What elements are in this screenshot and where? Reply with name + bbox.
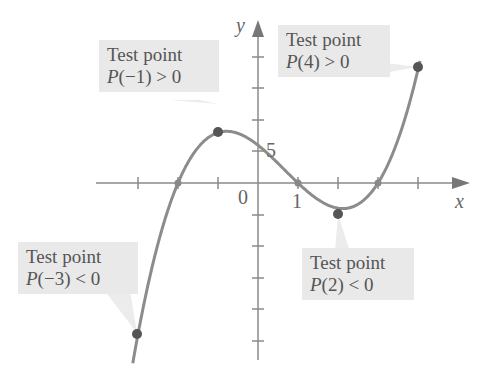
origin-label: 0 <box>238 186 248 209</box>
callout-test-point-neg1: Test point P(−1) > 0 <box>99 40 219 92</box>
zero-point <box>375 180 382 187</box>
callout-fn: P <box>26 268 38 289</box>
callout-test-point-neg3: Test point P(−3) < 0 <box>18 242 138 294</box>
callout-relation: > 0 <box>151 66 181 87</box>
callout-title: Test point <box>286 29 382 51</box>
x-axis-arrow-icon <box>452 177 470 189</box>
callout-test-point-2: Test point P(2) < 0 <box>302 248 414 300</box>
callout-title: Test point <box>107 44 211 66</box>
callout-arg: (2) <box>322 274 344 295</box>
x-axis <box>96 177 458 189</box>
y-axis-label: y <box>236 14 245 37</box>
callout-fn: P <box>107 66 119 87</box>
zero-point <box>295 180 302 187</box>
callout-fn: P <box>286 51 298 72</box>
callout-arg: (−1) <box>119 66 152 87</box>
callout-arg: (4) <box>298 51 320 72</box>
callout-pointer <box>104 290 137 333</box>
callout-relation: > 0 <box>320 51 350 72</box>
callout-title: Test point <box>310 252 406 274</box>
callout-arg: (−3) <box>38 268 71 289</box>
x-axis-label: x <box>455 190 464 213</box>
callout-pointer <box>335 214 350 252</box>
callout-test-point-4: Test point P(4) > 0 <box>278 25 390 77</box>
callout-title: Test point <box>26 246 130 268</box>
y-axis <box>252 30 264 360</box>
test-point-neg1 <box>213 127 223 137</box>
zero-point <box>175 180 182 187</box>
y-axis-arrow-icon <box>252 20 264 37</box>
y-tick-label-5: 5 <box>266 139 276 162</box>
callout-relation: < 0 <box>344 274 374 295</box>
x-tick-label-1: 1 <box>292 190 302 213</box>
callout-relation: < 0 <box>70 268 100 289</box>
test-point-4 <box>413 62 423 72</box>
polynomial-curve <box>133 61 420 363</box>
test-point-2 <box>333 209 343 219</box>
callout-fn: P <box>310 274 322 295</box>
test-point-neg3 <box>132 329 142 339</box>
callout-pointer <box>170 100 218 104</box>
